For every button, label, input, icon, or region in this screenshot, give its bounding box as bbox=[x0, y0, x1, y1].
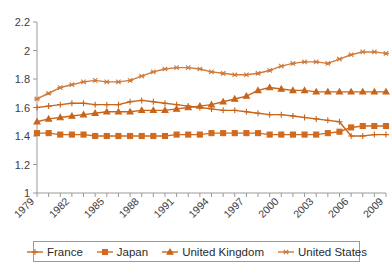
data-point-marker bbox=[232, 107, 238, 113]
x-tick-label: 1985 bbox=[81, 195, 106, 220]
data-point-marker bbox=[325, 131, 330, 136]
data-point-marker bbox=[302, 87, 308, 92]
data-point-marker bbox=[162, 107, 168, 112]
data-point-marker bbox=[116, 134, 121, 139]
data-point-marker bbox=[115, 109, 121, 114]
data-point-marker bbox=[69, 83, 75, 87]
data-point-marker bbox=[150, 107, 156, 112]
legend-marker-asterisk-icon bbox=[277, 246, 295, 258]
data-point-marker bbox=[127, 99, 133, 105]
y-tick-label: 1.4 bbox=[15, 130, 30, 142]
data-point-marker bbox=[57, 102, 63, 108]
data-point-marker bbox=[383, 51, 389, 55]
data-point-marker bbox=[244, 131, 249, 136]
data-point-marker bbox=[267, 85, 273, 90]
data-point-marker bbox=[278, 64, 284, 68]
data-point-marker bbox=[290, 87, 296, 92]
data-point-marker bbox=[313, 60, 319, 64]
data-point-marker bbox=[139, 74, 145, 78]
data-point-marker bbox=[162, 134, 167, 139]
legend-label: Japan bbox=[117, 246, 148, 258]
data-point-marker bbox=[383, 132, 389, 138]
legend-marker-plus-icon bbox=[26, 246, 44, 258]
data-point-marker bbox=[360, 133, 366, 139]
data-point-marker bbox=[81, 100, 87, 106]
data-point-marker bbox=[81, 132, 86, 137]
data-point-marker bbox=[278, 112, 284, 118]
data-point-marker bbox=[46, 116, 52, 121]
data-point-marker bbox=[337, 129, 342, 134]
x-tick-label: 1991 bbox=[151, 195, 176, 220]
data-point-marker bbox=[92, 110, 98, 115]
data-point-marker bbox=[325, 117, 331, 123]
series-japan bbox=[35, 124, 389, 139]
data-point-marker bbox=[255, 87, 261, 92]
data-point-marker bbox=[220, 71, 226, 75]
data-point-marker bbox=[104, 102, 110, 108]
data-point-marker bbox=[150, 70, 156, 74]
data-point-marker bbox=[92, 102, 98, 108]
data-point-marker bbox=[197, 132, 202, 137]
data-point-marker bbox=[336, 57, 342, 61]
legend-item-france[interactable]: France bbox=[26, 246, 83, 258]
chart-legend: FranceJapanUnited KingdomUnited States bbox=[33, 241, 360, 262]
legend-item-japan[interactable]: Japan bbox=[96, 246, 148, 258]
data-point-marker bbox=[283, 249, 289, 253]
data-point-marker bbox=[325, 61, 331, 65]
data-point-marker bbox=[383, 89, 389, 94]
data-point-marker bbox=[360, 89, 366, 94]
fertility-line-chart: 11.21.41.61.822.219791982198519881991199… bbox=[0, 0, 392, 269]
data-point-marker bbox=[243, 73, 249, 77]
x-tick-label: 2009 bbox=[360, 195, 385, 220]
data-point-marker bbox=[174, 65, 180, 69]
data-point-marker bbox=[267, 132, 272, 137]
data-point-marker bbox=[371, 132, 377, 138]
data-point-marker bbox=[57, 85, 63, 89]
data-point-marker bbox=[127, 78, 133, 82]
x-tick-label: 1988 bbox=[116, 195, 141, 220]
data-point-marker bbox=[302, 114, 308, 120]
data-point-marker bbox=[232, 96, 238, 101]
data-point-marker bbox=[302, 60, 308, 64]
legend-item-united-kingdom[interactable]: United Kingdom bbox=[161, 246, 264, 258]
legend-item-united-states[interactable]: United States bbox=[277, 246, 367, 258]
data-point-marker bbox=[151, 134, 156, 139]
x-tick-label: 1997 bbox=[221, 195, 246, 220]
data-point-marker bbox=[256, 131, 261, 136]
data-point-marker bbox=[220, 107, 226, 113]
x-tick-label: 2000 bbox=[256, 195, 281, 220]
legend-marker-triangle-icon bbox=[161, 246, 179, 258]
data-point-marker bbox=[46, 91, 52, 95]
data-point-marker bbox=[255, 110, 261, 116]
data-point-marker bbox=[313, 116, 319, 122]
data-point-marker bbox=[243, 93, 249, 98]
data-point-marker bbox=[185, 65, 191, 69]
y-tick-label: 1.2 bbox=[15, 159, 30, 171]
data-point-marker bbox=[349, 125, 354, 130]
data-point-marker bbox=[279, 132, 284, 137]
data-point-marker bbox=[81, 112, 87, 117]
data-point-marker bbox=[209, 70, 215, 74]
data-point-marker bbox=[313, 89, 319, 94]
data-point-marker bbox=[197, 103, 203, 108]
data-point-marker bbox=[104, 80, 110, 84]
series-united-states bbox=[34, 50, 389, 101]
data-point-marker bbox=[104, 109, 110, 114]
data-point-marker bbox=[197, 67, 203, 71]
data-point-marker bbox=[139, 134, 144, 139]
data-point-marker bbox=[150, 99, 156, 105]
data-point-marker bbox=[186, 132, 191, 137]
x-tick-label: 2006 bbox=[326, 195, 351, 220]
data-point-marker bbox=[92, 78, 98, 82]
data-point-marker bbox=[46, 131, 51, 136]
data-point-marker bbox=[278, 86, 284, 91]
x-tick-label: 1979 bbox=[11, 195, 36, 220]
data-point-marker bbox=[255, 71, 261, 75]
data-point-marker bbox=[32, 249, 38, 255]
data-point-marker bbox=[232, 131, 237, 136]
data-point-marker bbox=[360, 50, 366, 54]
data-point-marker bbox=[209, 131, 214, 136]
data-point-marker bbox=[35, 131, 40, 136]
data-point-marker bbox=[371, 89, 377, 94]
data-point-marker bbox=[162, 67, 168, 71]
